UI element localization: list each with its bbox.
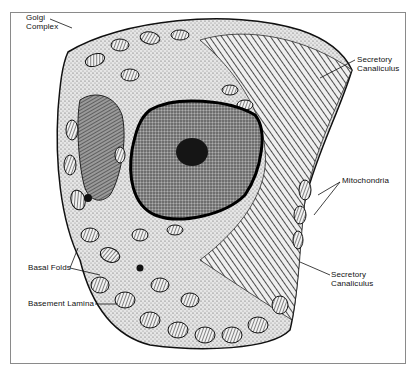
- label-golgi-complex: Golgi Complex: [26, 14, 58, 31]
- label-mitochondria: Mitochondria: [342, 177, 389, 186]
- granule: [137, 265, 144, 272]
- label-basement-lamina: Basement Lamina: [28, 300, 94, 309]
- label-secretory-canaliculus-top: Secretory Canaliculus: [357, 56, 399, 73]
- granule: [84, 194, 92, 202]
- nucleolus: [176, 138, 208, 166]
- label-secretory-canaliculus-bottom: Secretory Canaliculus: [331, 271, 373, 288]
- label-basal-folds: Basal Folds: [28, 264, 71, 273]
